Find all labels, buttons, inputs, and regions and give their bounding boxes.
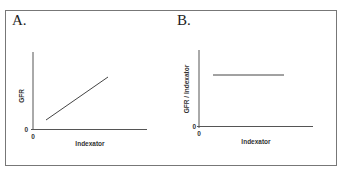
panel-a-line: [46, 77, 108, 120]
panel-a-xlabel: Indexator: [75, 140, 105, 147]
panel-b-xlabel: Indexator: [241, 138, 271, 145]
figure-plots: 0 0 Indexator GFR 0 0 Indexator GFR / In…: [0, 0, 340, 172]
panel-a-plot: 0 0 Indexator GFR: [18, 52, 147, 147]
panel-b-origin-y: 0: [192, 123, 196, 130]
panel-b-plot: 0 0 Indexator GFR / Indexator: [183, 50, 313, 145]
panel-a-origin-x: 0: [31, 133, 35, 140]
panel-a-ylabel: GFR: [18, 89, 25, 103]
panel-b-ylabel: GFR / Indexator: [183, 64, 190, 113]
panel-a-origin-y: 0: [24, 126, 28, 133]
panel-b-origin-x: 0: [197, 130, 201, 137]
